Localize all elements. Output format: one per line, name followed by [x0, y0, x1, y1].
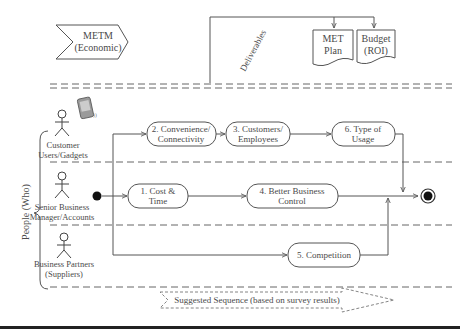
actor-partner-line1: Business Partners	[34, 259, 94, 269]
actor-senior-line2: Manager/Accounts	[30, 212, 95, 222]
activity-6-line1: 6. Type of	[345, 124, 381, 134]
activity-6-line2: Usage	[352, 134, 375, 144]
activity-4-line2: Control	[278, 196, 306, 206]
suggested-sequence-arrow: Suggested Sequence (based on survey resu…	[160, 288, 394, 312]
economic-line2: (Economic)	[74, 42, 121, 54]
activity-1-line2: Time	[149, 196, 168, 206]
economic-chevron: METM (Economic)	[56, 25, 128, 59]
activity-1-line1: 1. Cost &	[141, 186, 176, 196]
svg-text:)): ))	[93, 112, 97, 118]
doc-budget-line2: (ROI)	[364, 45, 388, 57]
actor-partner-line2: (Suppliers)	[45, 269, 83, 279]
actor-senior-manager	[55, 172, 69, 198]
activity-2-line2: Connectivity	[158, 134, 205, 144]
bottom-rule	[0, 326, 460, 329]
doc-met-line1: MET	[322, 33, 343, 44]
activity-3-customers[interactable]: 3. Customers/ Employees	[226, 122, 290, 146]
start-node	[93, 192, 102, 201]
activity-4-line1: 4. Better Business	[259, 186, 325, 196]
activity-2-convenience[interactable]: 2. Convenience/ Connectivity	[147, 122, 216, 146]
activity-2-line1: 2. Convenience/	[152, 124, 211, 134]
activity-5-competition[interactable]: 5. Competition	[288, 243, 360, 267]
legend-label: Suggested Sequence (based on survey resu…	[174, 295, 340, 305]
mobile-gadget-icon: ))	[77, 97, 97, 119]
activity-6-type-of-usage[interactable]: 6. Type of Usage	[332, 122, 395, 146]
actor-senior-line1: Senior Business	[35, 202, 90, 212]
activity-3-line2: Employees	[238, 134, 278, 144]
doc-budget-line1: Budget	[362, 33, 391, 44]
activity-3-line1: 3. Customers/	[233, 124, 284, 134]
actor-customer	[55, 110, 69, 136]
top-divider	[50, 84, 452, 88]
end-node	[421, 189, 435, 203]
economic-line1: METM	[83, 30, 113, 41]
deliverables-label: Deliverables	[238, 28, 268, 73]
diagram-canvas: METM (Economic) Deliverables MET Plan Bu…	[0, 0, 473, 335]
doc-met-line2: Plan	[324, 45, 342, 56]
document-met-plan: MET Plan	[313, 30, 353, 66]
activity-1-cost-time[interactable]: 1. Cost & Time	[128, 184, 188, 208]
activity-5-line1: 5. Competition	[297, 250, 352, 260]
actor-business-partner	[57, 233, 71, 258]
document-budget: Budget (ROI)	[357, 30, 395, 64]
actor-customer-line1: Customer	[46, 140, 79, 150]
actor-customer-line2: Users/Gadgets	[38, 150, 88, 160]
activity-4-business-control[interactable]: 4. Better Business Control	[247, 184, 338, 208]
